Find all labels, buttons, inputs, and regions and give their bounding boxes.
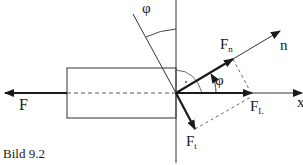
label-Fn: Fn	[220, 37, 233, 54]
diagram-graphics	[0, 0, 303, 165]
angle-label-inner: φ	[215, 73, 224, 88]
construction-line-Fn-FL	[233, 59, 251, 93]
label-Ft-sub: t	[194, 141, 197, 151]
angle-label-top: φ	[142, 1, 151, 16]
inclined-plane-line	[133, 14, 176, 93]
force-Ft-arrow	[176, 93, 195, 129]
label-FL: FL	[250, 99, 264, 116]
angle-arc-top	[146, 29, 176, 37]
right-angle-dot	[185, 81, 187, 83]
label-axis-n: n	[280, 38, 288, 53]
label-FL-sub: L	[258, 106, 264, 116]
label-axis-x: x	[297, 95, 303, 110]
label-F: F	[19, 97, 28, 113]
label-Ft: Ft	[186, 134, 197, 151]
force-diagram: φ φ F Fn FL Ft n x Bild 9.2	[0, 0, 303, 165]
figure-caption: Bild 9.2	[3, 147, 45, 160]
construction-line-Ft-FL	[195, 97, 251, 129]
force-Fn-arrow	[176, 59, 233, 93]
label-Fn-sub: n	[228, 44, 233, 54]
